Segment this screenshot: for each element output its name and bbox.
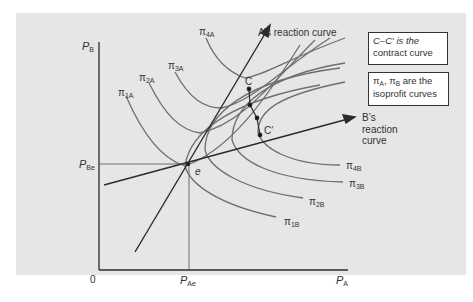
y-axis-label: PB [82, 41, 94, 53]
a-reaction-label: A’s reaction curve [258, 28, 337, 38]
pbe-label: PBe [79, 159, 95, 171]
isoprofit-2b-label: π2B [309, 197, 324, 208]
point-c [247, 87, 251, 91]
point-c-prime [258, 133, 262, 137]
isoprofit-1b-label: π1B [284, 217, 299, 228]
contract-start-label: C [245, 77, 252, 87]
contract-curve-note: C–C′ is the contract curve [368, 32, 448, 65]
equilibrium-label: e [195, 167, 201, 177]
isoprofit-note: πA, πB are the isoprofit curves [368, 72, 449, 106]
point-e [186, 162, 189, 165]
isoprofit-1a-label: π1A [118, 88, 133, 99]
a-reaction-curve [135, 32, 266, 252]
x-axis-label: PA [336, 275, 348, 287]
isoprofit-4a-label: π4A [199, 27, 214, 38]
isoprofit-curve-2a [149, 40, 315, 133]
isoprofit-curve-4a [206, 38, 345, 78]
isoprofit-4b-label: π4B [346, 161, 361, 172]
contract-end-label: C′ [264, 126, 273, 136]
b-reaction-label: B’s reaction curve [362, 112, 398, 147]
b-reaction-curve [104, 119, 348, 185]
isoprofit-2a-label: π2A [139, 73, 154, 84]
origin-label: 0 [90, 275, 96, 285]
isoprofit-3a-label: π3A [168, 61, 183, 72]
isoprofit-3b-label: π3B [349, 179, 364, 190]
pae-label: PAe [180, 275, 196, 287]
b-reaction-arrowhead [343, 115, 355, 123]
